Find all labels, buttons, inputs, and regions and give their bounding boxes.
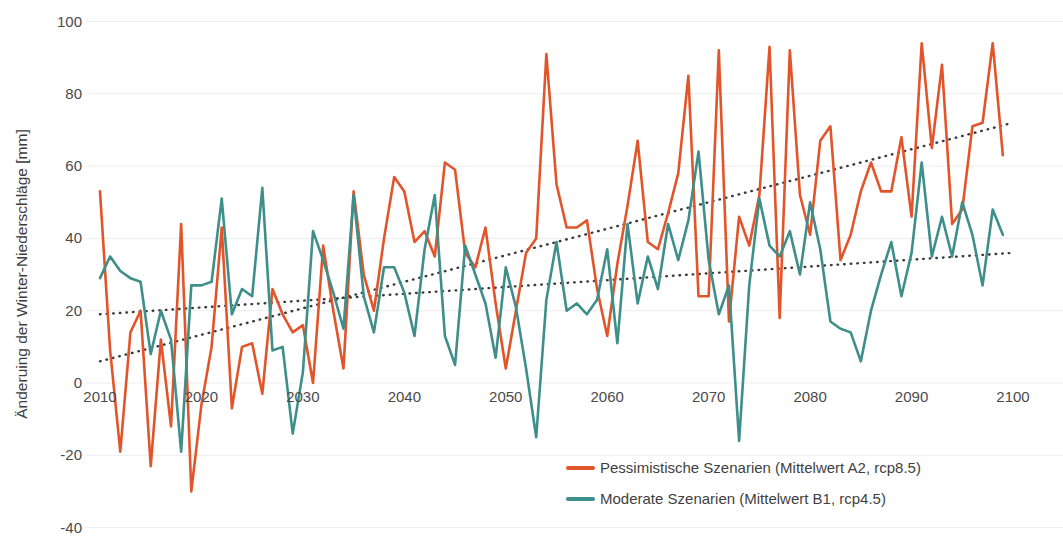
y-tick-label: -40 <box>34 519 82 536</box>
y-tick-label: 100 <box>34 13 82 30</box>
x-tick-label: 2030 <box>268 388 338 405</box>
y-tick-label: 40 <box>34 229 82 246</box>
chart-legend: Pessimistische Szenarien (Mittelwert A2,… <box>566 452 1036 514</box>
y-tick-label: 80 <box>34 85 82 102</box>
x-tick-label: 2010 <box>65 388 135 405</box>
y-tick-label: 60 <box>34 157 82 174</box>
series-group <box>100 43 1003 491</box>
legend-label-pessimistic: Pessimistische Szenarien (Mittelwert A2,… <box>600 459 921 476</box>
x-tick-label: 2040 <box>369 388 439 405</box>
x-tick-label: 2060 <box>572 388 642 405</box>
legend-swatch-moderate <box>566 497 595 501</box>
x-tick-label: 2050 <box>471 388 541 405</box>
series-line-moderate <box>100 152 1003 452</box>
x-tick-label: 2090 <box>877 388 947 405</box>
precipitation-change-chart: Änderuing der Winter-Niederschläge [mm] … <box>0 0 1063 554</box>
legend-swatch-pessimistic <box>566 466 595 470</box>
y-tick-label: 20 <box>34 302 82 319</box>
x-tick-label: 2020 <box>166 388 236 405</box>
legend-label-moderate: Moderate Szenarien (Mittelwert B1, rcp4.… <box>600 490 886 507</box>
x-tick-label: 2070 <box>674 388 744 405</box>
x-tick-label: 2100 <box>978 388 1048 405</box>
y-tick-label: -20 <box>34 446 82 463</box>
legend-item-pessimistic[interactable]: Pessimistische Szenarien (Mittelwert A2,… <box>566 452 1036 483</box>
legend-item-moderate[interactable]: Moderate Szenarien (Mittelwert B1, rcp4.… <box>566 483 1036 514</box>
x-tick-label: 2080 <box>775 388 845 405</box>
